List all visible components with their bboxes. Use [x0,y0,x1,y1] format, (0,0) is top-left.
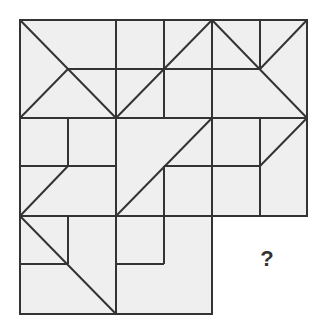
question-mark: ? [252,246,282,272]
puzzle-grid [0,0,325,327]
